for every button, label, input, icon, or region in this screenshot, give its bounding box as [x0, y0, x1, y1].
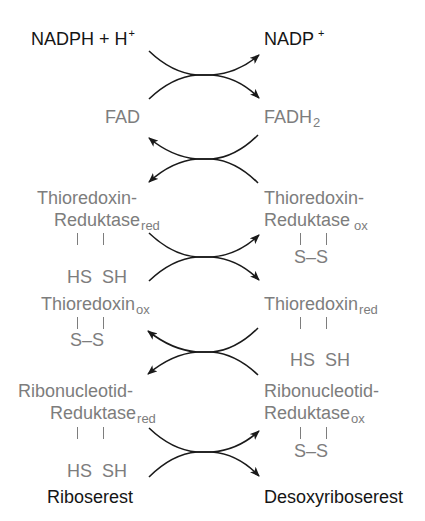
nadph-label: NADPH + H+	[31, 29, 135, 51]
reaction-3-arrows	[149, 233, 259, 281]
nadp-label: NADP+	[264, 29, 324, 51]
thioredoxin-red-groups: HS SH	[280, 330, 350, 370]
thioredoxin-ox-label: Thioredoxinox	[41, 294, 150, 316]
thioredoxin-red-name: Thioredoxin	[264, 294, 358, 314]
reaction-2-arrows	[149, 135, 258, 183]
thiol-bond-right	[103, 427, 104, 439]
trx-reductase-red-state: red	[141, 218, 160, 233]
disulfide-bond-right	[326, 233, 327, 245]
rnr-red-line2: Reduktasered	[50, 403, 156, 425]
disulfide-bond-right	[326, 427, 327, 439]
rnr-red-name: Ribonucleotid-	[18, 381, 133, 401]
thioredoxin-red-state: red	[359, 302, 378, 317]
trx-reductase-red-line2: Reduktasered	[54, 210, 160, 232]
rnr-ox-name2: Reduktase	[264, 403, 350, 423]
nadph-text: NADPH + H	[31, 29, 128, 49]
rnr-ox-groups: S–S	[294, 441, 328, 461]
nadph-charge: +	[129, 27, 135, 39]
thiol-groups-text: HS SH	[290, 350, 350, 370]
thiol-bond-left	[300, 317, 301, 329]
fad-text: FAD	[105, 107, 140, 127]
reaction-4-arrows	[148, 328, 258, 375]
riboserest-label: Riboserest	[47, 487, 133, 507]
thioredoxin-ox-groups: S–S	[70, 330, 104, 350]
rnr-red-groups: HS SH	[57, 441, 127, 481]
reaction-1-arrows	[149, 51, 259, 99]
desoxyriboserest-label: Desoxyriboserest	[264, 487, 403, 507]
rnr-red-state: red	[137, 411, 156, 426]
fadh2-label: FADH2	[264, 107, 320, 129]
disulfide-text: S–S	[294, 441, 328, 461]
thiol-groups-text: HS SH	[67, 461, 127, 481]
thioredoxin-ox-name: Thioredoxin	[41, 294, 135, 314]
disulfide-text: S–S	[70, 330, 104, 350]
nadp-text: NADP	[264, 29, 314, 49]
rnr-ox-name: Ribonucleotid-	[264, 381, 379, 401]
reaction-5-arrows	[149, 428, 259, 477]
thiol-bond-left	[77, 233, 78, 245]
thiol-bond-left	[77, 427, 78, 439]
trx-reductase-ox-name: Thioredoxin-	[264, 188, 364, 208]
trx-reductase-ox-state: ox	[354, 218, 368, 233]
trx-reductase-ox-line1: Thioredoxin-	[264, 188, 364, 208]
disulfide-bond-left	[300, 427, 301, 439]
thiol-groups-text: HS SH	[67, 267, 127, 287]
trx-reductase-ox-line2: Reduktaseox	[264, 210, 368, 232]
disulfide-bond-right	[103, 317, 104, 329]
trx-reductase-red-line1: Thioredoxin-	[37, 188, 137, 208]
trx-reductase-red-groups: HS SH	[57, 247, 127, 287]
thiol-bond-right	[326, 317, 327, 329]
disulfide-bond-left	[300, 233, 301, 245]
rnr-ox-state: ox	[351, 411, 365, 426]
thioredoxin-ox-state: ox	[136, 302, 150, 317]
trx-reductase-red-name2: Reduktase	[54, 210, 140, 230]
rnr-red-line1: Ribonucleotid-	[18, 381, 133, 401]
rnr-ox-line1: Ribonucleotid-	[264, 381, 379, 401]
fad-label: FAD	[105, 107, 140, 127]
fadh2-text: FADH	[264, 107, 312, 127]
thiol-bond-right	[103, 233, 104, 245]
disulfide-bond-left	[77, 317, 78, 329]
nadp-charge: +	[318, 27, 324, 39]
desoxyriboserest-text: Desoxyriboserest	[264, 487, 403, 507]
trx-reductase-ox-name2: Reduktase	[264, 210, 350, 230]
trx-reductase-ox-groups: S–S	[294, 247, 328, 267]
fadh2-subscript: 2	[313, 115, 320, 130]
disulfide-text: S–S	[294, 247, 328, 267]
riboserest-text: Riboserest	[47, 487, 133, 507]
thioredoxin-red-label: Thioredoxinred	[264, 294, 378, 316]
trx-reductase-red-name: Thioredoxin-	[37, 188, 137, 208]
rnr-red-name2: Reduktase	[50, 403, 136, 423]
rnr-ox-line2: Reduktaseox	[264, 403, 365, 425]
